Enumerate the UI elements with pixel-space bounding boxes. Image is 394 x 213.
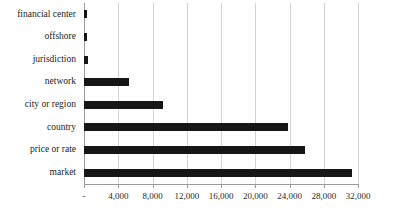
x-tick-label: 12,000 [174, 189, 199, 203]
category-label: financial center [0, 10, 80, 18]
x-tick [187, 184, 188, 188]
x-tick [324, 184, 325, 188]
bar-row [84, 169, 358, 177]
bar-row [84, 33, 358, 41]
category-label: offshore [0, 33, 80, 41]
category-label: network [0, 78, 80, 86]
bar-chart: financial centeroffshorejurisdictionnetw… [0, 0, 394, 213]
x-tick [255, 184, 256, 188]
bar-network [84, 78, 129, 86]
bar-row [84, 56, 358, 64]
bar-city-or-region [84, 101, 163, 109]
x-tick-label: 16,000 [209, 189, 234, 203]
bar-row [84, 101, 358, 109]
x-axis-tick-labels: -4,0008,00012,00016,00020,00024,00028,00… [84, 189, 358, 203]
x-tick [118, 184, 119, 188]
category-label: price or rate [0, 146, 80, 154]
plot-area [84, 3, 358, 184]
x-tick-label: 8,000 [142, 189, 162, 203]
category-label: country [0, 123, 80, 131]
bar-country [84, 123, 288, 131]
x-tick-label: 20,000 [243, 189, 268, 203]
bar-series [84, 3, 358, 184]
x-tick-label: 4,000 [108, 189, 128, 203]
x-tick [153, 184, 154, 188]
x-tick [358, 184, 359, 188]
bar-row [84, 10, 358, 18]
category-axis-labels: financial centeroffshorejurisdictionnetw… [0, 3, 80, 184]
x-tick [84, 184, 85, 188]
bar-jurisdiction [84, 56, 88, 64]
bar-row [84, 123, 358, 131]
bar-market [84, 169, 352, 177]
category-label: city or region [0, 101, 80, 109]
bar-financial-center [84, 10, 87, 18]
bar-price-or-rate [84, 146, 305, 154]
bar-row [84, 146, 358, 154]
x-axis-ticks [84, 184, 358, 188]
bar-offshore [84, 33, 87, 41]
x-tick-label: - [83, 189, 86, 203]
x-tick-label: 32,000 [346, 189, 371, 203]
category-label: jurisdiction [0, 56, 80, 64]
x-tick [221, 184, 222, 188]
bar-row [84, 78, 358, 86]
category-label: market [0, 169, 80, 177]
x-tick-label: 24,000 [277, 189, 302, 203]
x-tick-label: 28,000 [311, 189, 336, 203]
x-tick [290, 184, 291, 188]
gridline [358, 3, 359, 184]
